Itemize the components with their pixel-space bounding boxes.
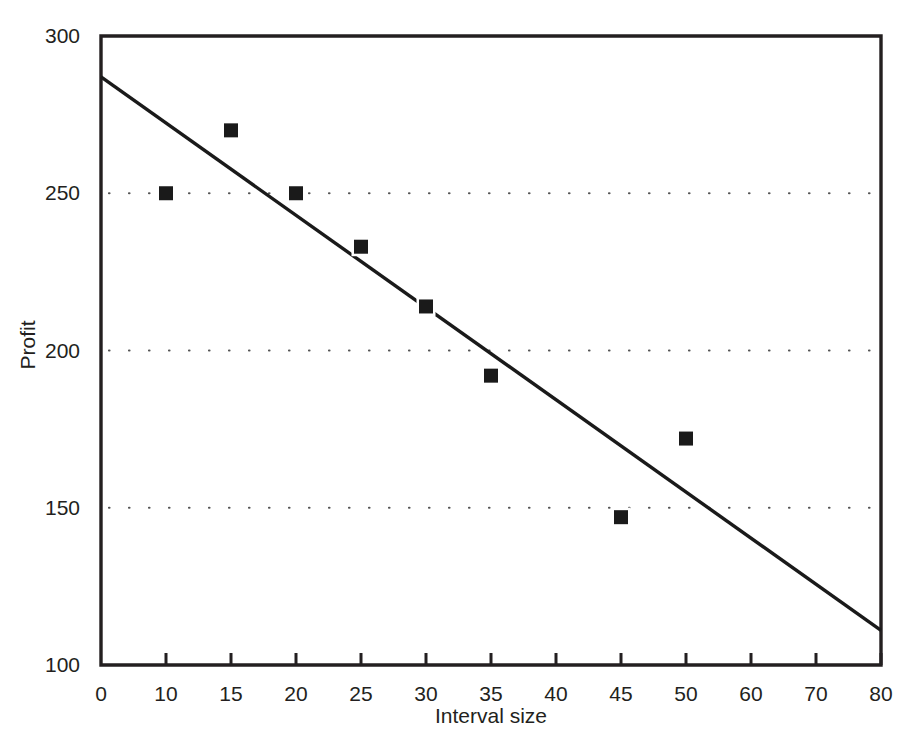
x-tick-label-30: 30 <box>414 682 437 706</box>
plot-frame <box>101 36 881 665</box>
gridlines-group <box>109 193 875 508</box>
y-tick-label-100: 100 <box>30 653 80 677</box>
data-point-marker <box>614 510 628 524</box>
data-point-marker <box>159 186 173 200</box>
x-tick-label-0: 0 <box>95 682 107 706</box>
x-tick-label-70: 70 <box>804 682 827 706</box>
x-tick-label-80: 80 <box>869 682 892 706</box>
x-tick-label-15: 15 <box>219 682 242 706</box>
data-point-marker <box>354 240 368 254</box>
data-point-marker <box>289 186 303 200</box>
data-point-marker <box>224 123 238 137</box>
y-tick-label-250: 250 <box>30 181 80 205</box>
data-points-group <box>157 121 696 527</box>
x-tick-label-45: 45 <box>609 682 632 706</box>
axis-ticks-group <box>166 653 881 665</box>
x-tick-label-35: 35 <box>479 682 502 706</box>
x-tick-label-25: 25 <box>349 682 372 706</box>
y-axis-title: Profit <box>16 320 40 369</box>
x-tick-label-10: 10 <box>154 682 177 706</box>
x-tick-label-60: 60 <box>739 682 762 706</box>
scatter-chart-figure: 0101520253035404550607080 10015020025030… <box>0 0 909 756</box>
x-axis-title: Interval size <box>435 704 547 728</box>
plot-canvas <box>0 0 909 756</box>
trendline-group <box>101 77 881 631</box>
regression-line <box>101 77 881 631</box>
axis-frame-group <box>101 36 881 665</box>
x-tick-label-50: 50 <box>674 682 697 706</box>
data-point-marker <box>484 369 498 383</box>
y-tick-label-300: 300 <box>30 24 80 48</box>
x-tick-label-20: 20 <box>284 682 307 706</box>
x-tick-label-40: 40 <box>544 682 567 706</box>
y-tick-label-150: 150 <box>30 496 80 520</box>
data-point-marker <box>419 299 433 313</box>
data-point-marker <box>679 432 693 446</box>
